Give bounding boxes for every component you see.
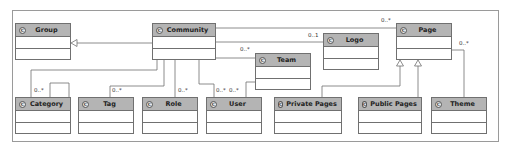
class-public-pages[interactable]: C Public Pages: [358, 97, 422, 134]
class-header: C Public Pages: [359, 98, 421, 111]
operations-compartment: [16, 49, 70, 60]
class-team[interactable]: C Team: [255, 53, 311, 90]
class-header: C Team: [256, 54, 310, 67]
class-icon: C: [435, 101, 442, 108]
multiplicity-category: 0..*: [34, 87, 44, 93]
attributes-compartment: [359, 111, 421, 123]
class-header: C Page: [397, 24, 451, 37]
self-association-category: [50, 83, 69, 97]
multiplicity-page: 0..*: [381, 17, 391, 23]
attributes-compartment: [143, 111, 197, 123]
generalization-arrowhead-privatepages: [397, 60, 404, 66]
class-header: C Role: [143, 98, 197, 111]
class-header: C Logo: [324, 34, 378, 47]
class-name: Community: [166, 26, 215, 34]
attributes-compartment: [256, 67, 310, 79]
attributes-compartment: [207, 111, 261, 123]
generalization-arrowhead-group: [71, 40, 77, 47]
attributes-compartment: [16, 111, 70, 123]
attributes-compartment: [397, 37, 451, 49]
class-theme[interactable]: C Theme: [431, 97, 487, 134]
multiplicity-role: 0..*: [178, 87, 188, 93]
class-icon: C: [19, 101, 26, 108]
association-page-theme: [452, 50, 464, 97]
multiplicity-user-team: 0..*: [229, 87, 239, 93]
class-header: C Private Pages: [275, 98, 341, 111]
class-icon: C: [278, 101, 283, 108]
multiplicity-theme: 0..*: [459, 40, 469, 46]
class-category[interactable]: C Category: [15, 97, 71, 134]
class-name: Page: [410, 26, 451, 34]
class-group[interactable]: C Group: [15, 23, 71, 60]
class-header: C Tag: [79, 98, 133, 111]
multiplicity-logo: 0..1: [308, 32, 319, 38]
class-name: User: [220, 100, 261, 108]
class-name: Logo: [337, 36, 378, 44]
class-header: C Community: [153, 24, 215, 37]
class-name: Role: [156, 100, 197, 108]
class-tag[interactable]: C Tag: [78, 97, 134, 134]
association-team-user: [246, 82, 255, 97]
operations-compartment: [359, 123, 421, 134]
class-icon: C: [259, 57, 266, 64]
class-page[interactable]: C Page: [396, 23, 452, 60]
class-icon: C: [19, 27, 26, 34]
operations-compartment: [256, 79, 310, 90]
class-name: Group: [29, 26, 70, 34]
operations-compartment: [143, 123, 197, 134]
attributes-compartment: [432, 111, 486, 123]
attributes-compartment: [16, 37, 70, 49]
operations-compartment: [324, 59, 378, 70]
class-logo[interactable]: C Logo: [323, 33, 379, 70]
class-user[interactable]: C User: [206, 97, 262, 134]
class-role[interactable]: C Role: [142, 97, 198, 134]
class-name: Tag: [92, 100, 133, 108]
class-icon: C: [210, 101, 217, 108]
class-header: C Group: [16, 24, 70, 37]
class-icon: C: [400, 27, 407, 34]
generalization-arrowhead-publicpages: [415, 60, 422, 66]
class-header: C User: [207, 98, 261, 111]
multiplicity-user-community: 0..*: [216, 87, 226, 93]
class-name: Private Pages: [286, 100, 343, 108]
attributes-compartment: [79, 111, 133, 123]
multiplicity-tag: 0..*: [112, 87, 122, 93]
attributes-compartment: [275, 111, 341, 123]
class-name: Category: [29, 100, 70, 108]
class-private-pages[interactable]: C Private Pages: [274, 97, 342, 134]
operations-compartment: [275, 123, 341, 134]
attributes-compartment: [324, 47, 378, 59]
attributes-compartment: [153, 37, 215, 49]
class-header: C Theme: [432, 98, 486, 111]
association-community-user: [199, 60, 214, 97]
class-name: Theme: [445, 100, 486, 108]
operations-compartment: [16, 123, 70, 134]
class-name: Public Pages: [370, 100, 423, 108]
class-icon: C: [156, 27, 163, 34]
class-name: Team: [269, 56, 310, 64]
operations-compartment: [79, 123, 133, 134]
class-community[interactable]: C Community: [152, 23, 216, 60]
class-icon: C: [82, 101, 89, 108]
class-icon: C: [362, 101, 367, 108]
operations-compartment: [432, 123, 486, 134]
class-header: C Category: [16, 98, 70, 111]
generalization-privatepages-page: [322, 66, 400, 97]
operations-compartment: [207, 123, 261, 134]
class-icon: C: [327, 37, 334, 44]
multiplicity-team: 0..*: [240, 46, 250, 52]
operations-compartment: [397, 49, 451, 60]
class-icon: C: [146, 101, 153, 108]
operations-compartment: [153, 49, 215, 60]
